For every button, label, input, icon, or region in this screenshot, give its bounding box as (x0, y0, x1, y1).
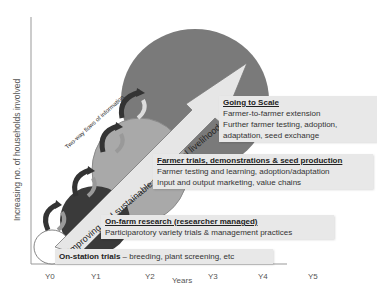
stage-separator: – (120, 252, 129, 261)
stage-box-farmer-trials: Farmer trials, demonstrations & seed pro… (153, 154, 373, 189)
stage-box-on-station: On-station trials – breeding, plant scre… (55, 249, 273, 264)
stage-title-farmer-trials: Farmer trials, demonstrations & seed pro… (157, 155, 369, 166)
x-tick-y3: Y3 (208, 272, 218, 281)
x-tick-y0: Y0 (45, 272, 55, 281)
stage-box-going-to-scale: Going to Scale Farmer-to-farmer extensio… (219, 96, 377, 142)
y-axis-label: Increasing no. of households involved (12, 79, 22, 221)
stage-line: Participarotory variety trials & managem… (105, 227, 330, 238)
x-tick-y5: Y5 (308, 272, 318, 281)
stage-title-on-farm-research: On-farm research (researcher managed) (105, 216, 330, 227)
x-axis-label: Years (172, 276, 192, 285)
stage-line: breeding, plant screening, etc (129, 252, 234, 261)
two-way-arrow-1 (46, 200, 65, 230)
x-tick-y4: Y4 (258, 272, 268, 281)
x-tick-y1: Y1 (91, 272, 101, 281)
stage-line: Input and output marketing, value chains (157, 177, 369, 188)
stage-title-going-to-scale: Going to Scale (223, 97, 373, 108)
stage-box-on-farm-research: On-farm research (researcher managed) Pa… (101, 215, 334, 239)
x-tick-y2: Y2 (145, 272, 155, 281)
stage-line: Farmer-to-farmer extension (223, 108, 373, 119)
stage-title-on-station: On-station trials (59, 252, 120, 261)
stage-line: Further farmer testing, adoption, (223, 119, 373, 130)
stage-line: adaptation, seed exchange (223, 130, 373, 141)
stage-line: Farmer testing and learning, adoption/ad… (157, 166, 369, 177)
